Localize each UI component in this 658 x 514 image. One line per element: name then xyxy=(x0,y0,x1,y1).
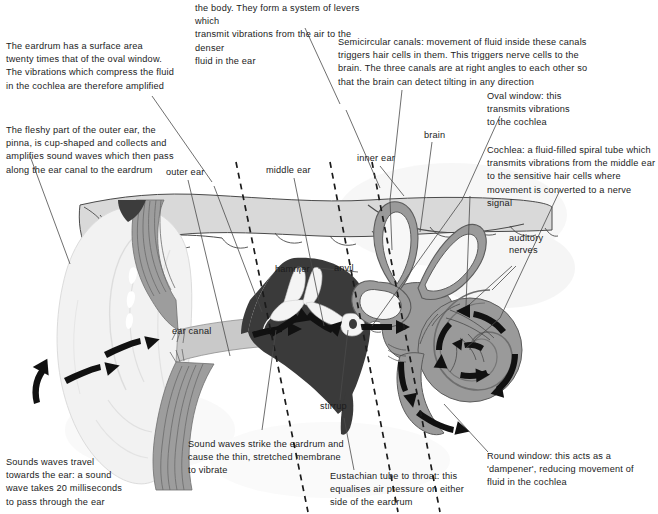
annotation-cochlea-note: Cochlea: a fluid-filled spiral tube whic… xyxy=(487,144,658,210)
annotation-eustachian-tube-note: Eustachian tube to throat: this equalise… xyxy=(330,470,490,510)
annotation-pinna-note: The fleshy part of the outer ear, the pi… xyxy=(6,124,188,177)
annotation-eardrum-area-note: The eardrum has a surface area twenty ti… xyxy=(6,40,184,93)
label-anvil: anvil xyxy=(334,262,354,274)
annotation-oval-window-note: Oval window: this transmits vibrations t… xyxy=(487,90,597,130)
label-inner-ear: inner ear xyxy=(357,152,395,164)
annotation-round-window-note: Round window: this acts as a 'dampener',… xyxy=(487,450,653,490)
ear-diagram-page: the body. They form a system of levers w… xyxy=(0,0,658,514)
annotation-sound-waves-travel-note: Sounds waves travel towards the ear: a s… xyxy=(6,456,136,509)
label-stirrup: stirrup xyxy=(320,400,347,412)
label-middle-ear: middle ear xyxy=(266,164,311,176)
label-auditory-nerves: auditory nerves xyxy=(509,232,543,256)
label-brain: brain xyxy=(424,129,445,141)
label-outer-ear: outer ear xyxy=(166,166,204,178)
label-ear-canal: ear canal xyxy=(172,325,211,337)
annotation-semicircular-canals-note: Semicircular canals: movement of fluid i… xyxy=(338,36,650,89)
leader-ossicles-note-2 xyxy=(346,110,380,188)
label-hammer: hammer xyxy=(275,263,310,275)
